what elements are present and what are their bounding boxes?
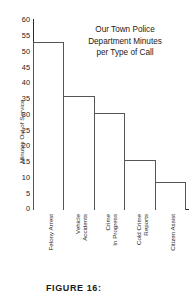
plot-area: 605550454035302520151050 Felony ArrestVe…	[0, 0, 196, 303]
y-axis-tick-label: 55	[14, 32, 30, 39]
x-axis-category-label: VehicleAccidents	[75, 214, 85, 272]
category-label-line: Citizen Assist	[170, 214, 177, 272]
y-axis-tick-label: 10	[14, 174, 30, 181]
y-axis-tick-label: 45	[14, 64, 30, 71]
x-axis-category-label: CrimeIn Progress	[105, 214, 115, 272]
x-axis-category-label: Felony Arrest	[48, 214, 58, 272]
x-axis-category-label: Cold CrimeReports	[136, 214, 146, 272]
chart-title-line: Our Town Police	[62, 24, 188, 36]
bar	[155, 182, 186, 210]
y-axis-tick-label: 0	[14, 205, 30, 212]
chart-title: Our Town PoliceDepartment Minutesper Typ…	[62, 24, 188, 59]
y-axis-tick-labels: 605550454035302520151050	[12, 0, 30, 303]
y-axis-tick-label: 30	[14, 111, 30, 118]
y-axis-tick-label: 60	[14, 16, 30, 23]
y-axis-tick-label: 20	[14, 142, 30, 149]
bar	[33, 42, 64, 210]
x-axis-category-label: Citizen Assist	[170, 214, 180, 272]
category-label-line: Reports	[142, 214, 149, 272]
category-label-line: In Progress	[112, 214, 119, 272]
y-axis-tick-label: 5	[14, 190, 30, 197]
chart-title-line: Department Minutes	[62, 36, 188, 48]
y-axis-tick-label: 40	[14, 79, 30, 86]
category-label-line: Accidents	[81, 214, 88, 272]
chart-title-line: per Type of Call	[62, 47, 188, 59]
figure-caption: FIGURE 16:	[46, 283, 102, 293]
y-axis-tick-label: 15	[14, 158, 30, 165]
bar	[94, 113, 125, 210]
y-axis-tick-label: 50	[14, 48, 30, 55]
y-axis-tick-label: 35	[14, 95, 30, 102]
y-axis-tick-label: 25	[14, 127, 30, 134]
bar	[63, 96, 94, 210]
bar	[124, 160, 155, 210]
category-label-line: Felony Arrest	[48, 214, 55, 272]
figure-container: Minutes Out of Service 60555045403530252…	[0, 0, 196, 303]
